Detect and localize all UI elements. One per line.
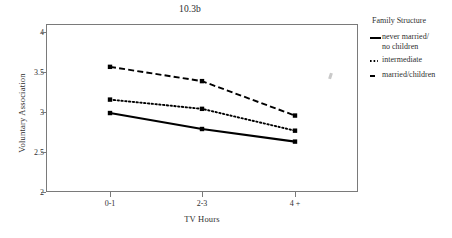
data-point-marker-0-0	[108, 111, 112, 115]
series-line-1	[110, 100, 295, 131]
x-tick-mark-0-1	[110, 192, 111, 197]
data-point-marker-1-1	[200, 107, 204, 111]
data-point-marker-1-0	[108, 97, 112, 101]
data-point-marker-2-2	[293, 113, 297, 117]
legend-line-solid-icon	[370, 33, 382, 43]
legend-label-intermediate: intermediate	[382, 55, 422, 65]
legend-entry-married-children[interactable]: married/children	[370, 70, 452, 81]
chart-title: 10.3b	[0, 4, 380, 14]
data-point-marker-0-1	[200, 127, 204, 131]
x-tick-label-0-1: 0-1	[88, 199, 132, 208]
legend: Family Structure never married/ no child…	[370, 16, 452, 85]
legend-entry-intermediate[interactable]: intermediate	[370, 55, 452, 66]
legend-label-married-children: married/children	[382, 70, 435, 80]
data-point-marker-2-1	[200, 79, 204, 83]
y-tick-mark-2	[41, 192, 46, 193]
legend-line-dotted-icon	[370, 56, 382, 66]
plot-series-svg	[46, 24, 358, 192]
y-axis-title: Voluntary Association	[17, 43, 27, 183]
legend-label-never-married: never married/ no children	[382, 32, 429, 51]
data-point-marker-0-2	[293, 139, 297, 143]
x-tick-label-4-plus: 4 +	[273, 199, 317, 208]
x-tick-mark-2-3	[202, 192, 203, 197]
data-point-marker-1-2	[293, 128, 297, 132]
legend-entry-never-married[interactable]: never married/ no children	[370, 32, 452, 51]
x-axis-title: TV Hours	[46, 214, 358, 224]
x-tick-label-2-3: 2-3	[180, 199, 224, 208]
data-point-marker-2-0	[108, 65, 112, 69]
x-tick-mark-4-plus	[295, 192, 296, 197]
legend-title: Family Structure	[372, 16, 452, 25]
chart-figure: 10.3b 4 3.5 3 2.5 2 Voluntary Associatio…	[0, 0, 452, 238]
legend-line-dashed-icon	[370, 71, 382, 81]
